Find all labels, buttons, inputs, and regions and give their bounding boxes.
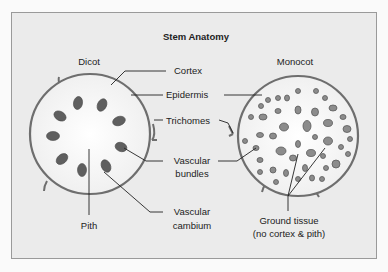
epidermis-label: Epidermis (166, 89, 208, 100)
vascular-bundles-label-line2: bundles (175, 168, 209, 179)
ground-tissue-label-line2: (no cortex & pith) (253, 228, 325, 239)
monocot-label: Monocot (277, 56, 314, 67)
vascular-bundles-label-line1: Vascular (174, 155, 210, 166)
dicot-label: Dicot (78, 56, 100, 67)
pith-label: Pith (81, 220, 97, 231)
cortex-label: Cortex (174, 65, 202, 76)
vascular-cambium-label-line2: cambium (173, 220, 212, 231)
stem-anatomy-diagram: Stem Anatomy Dicot Monocot (0, 0, 388, 272)
trichomes-label: Trichomes (166, 115, 210, 126)
ground-tissue-label-line1: Ground tissue (259, 215, 318, 226)
diagram-title: Stem Anatomy (163, 31, 230, 42)
vascular-cambium-label-line1: Vascular (174, 206, 210, 217)
